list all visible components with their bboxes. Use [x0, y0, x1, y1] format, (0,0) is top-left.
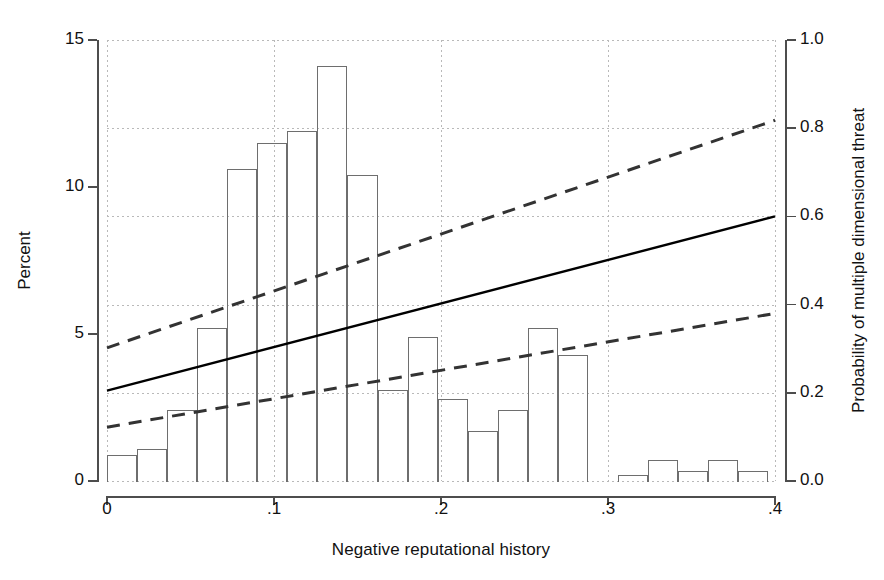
y-axis-left-tick	[88, 480, 97, 482]
x-axis-tick-label-wrap: .1	[254, 498, 294, 520]
y-axis-left-tick-label-wrap: 10	[40, 176, 84, 196]
y-axis-left-tick-label-wrap: 5	[40, 323, 84, 343]
x-axis-tick-label: 0	[87, 498, 127, 520]
y-axis-right-tick-label: 0.8	[800, 117, 846, 137]
chart-figure: Percent Probability of multiple dimensio…	[0, 0, 884, 580]
y-axis-right-tick-label-wrap: 0.8	[800, 117, 846, 137]
x-axis-tick-label-wrap: .2	[421, 498, 461, 520]
series-line	[107, 120, 775, 348]
x-axis-tick-label: .3	[588, 498, 628, 520]
x-axis-tick-label-wrap: 0	[87, 498, 127, 520]
y-axis-right-tick-label: 0.4	[800, 294, 846, 314]
y-axis-right-tick-label-wrap: 1.0	[800, 29, 846, 49]
x-axis-tick-label: .4	[755, 498, 795, 520]
y-axis-right-tick-label: 0.6	[800, 205, 846, 225]
y-axis-right-tick-label-wrap: 0.4	[800, 294, 846, 314]
y-axis-left-tick-label: 10	[40, 176, 84, 196]
fitted-lines	[107, 40, 775, 481]
y-axis-right-tick	[787, 127, 796, 129]
x-axis-tick-label: .1	[254, 498, 294, 520]
y-axis-right-title-text: Probability of multiple dimensional thre…	[848, 40, 870, 481]
y-axis-right-tick-label: 0.2	[800, 382, 846, 402]
y-axis-right-tick	[787, 39, 796, 41]
y-axis-left-spine	[97, 40, 99, 482]
x-axis-title: Negative reputational history	[107, 540, 775, 560]
y-axis-left-tick-label: 0	[40, 470, 84, 490]
y-axis-left-tick	[88, 39, 97, 41]
y-axis-right-spine	[785, 40, 787, 482]
series-line	[107, 216, 775, 390]
x-axis-tick-label-wrap: .4	[755, 498, 795, 520]
y-axis-left-tick	[88, 333, 97, 335]
y-axis-right-tick	[787, 216, 796, 218]
y-axis-right-tick-label-wrap: 0.0	[800, 470, 846, 490]
y-axis-left-title: Percent	[14, 40, 36, 481]
y-axis-left-tick	[88, 186, 97, 188]
y-axis-right-tick-label-wrap: 0.6	[800, 205, 846, 225]
series-line	[107, 313, 775, 427]
gridline-vertical	[775, 40, 776, 481]
y-axis-left-tick-label-wrap: 0	[40, 470, 84, 490]
y-axis-left-tick-label: 15	[40, 29, 84, 49]
y-axis-right-tick-label-wrap: 0.2	[800, 382, 846, 402]
x-axis-tick-label-wrap: .3	[588, 498, 628, 520]
y-axis-right-tick-label: 0.0	[800, 470, 846, 490]
plot-area	[107, 40, 775, 481]
x-axis-tick-label: .2	[421, 498, 461, 520]
y-axis-right-title: Probability of multiple dimensional thre…	[848, 40, 870, 481]
y-axis-left-tick-label-wrap: 15	[40, 29, 84, 49]
y-axis-right-tick	[787, 304, 796, 306]
y-axis-right-tick	[787, 480, 796, 482]
y-axis-left-title-text: Percent	[14, 40, 36, 481]
y-axis-right-tick	[787, 392, 796, 394]
y-axis-right-tick-label: 1.0	[800, 29, 846, 49]
y-axis-left-tick-label: 5	[40, 323, 84, 343]
